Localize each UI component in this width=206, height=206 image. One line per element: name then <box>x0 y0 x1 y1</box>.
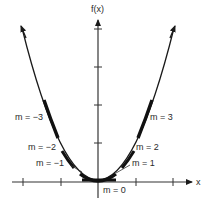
tangent-m-neg3 <box>44 100 58 138</box>
label-m-neg3: m = −3 <box>15 113 43 122</box>
label-m2: m = 2 <box>136 143 159 152</box>
label-m-neg1: m = −1 <box>36 159 64 168</box>
parabola-diagram <box>0 0 206 206</box>
label-m-neg2: m = −2 <box>28 143 56 152</box>
label-m3: m = 3 <box>150 113 173 122</box>
label-m1: m = 1 <box>132 159 155 168</box>
x-axis-label: x <box>196 178 201 187</box>
y-axis-label: f(x) <box>91 5 104 14</box>
y-axis <box>94 20 102 198</box>
label-m0: m = 0 <box>103 186 126 195</box>
